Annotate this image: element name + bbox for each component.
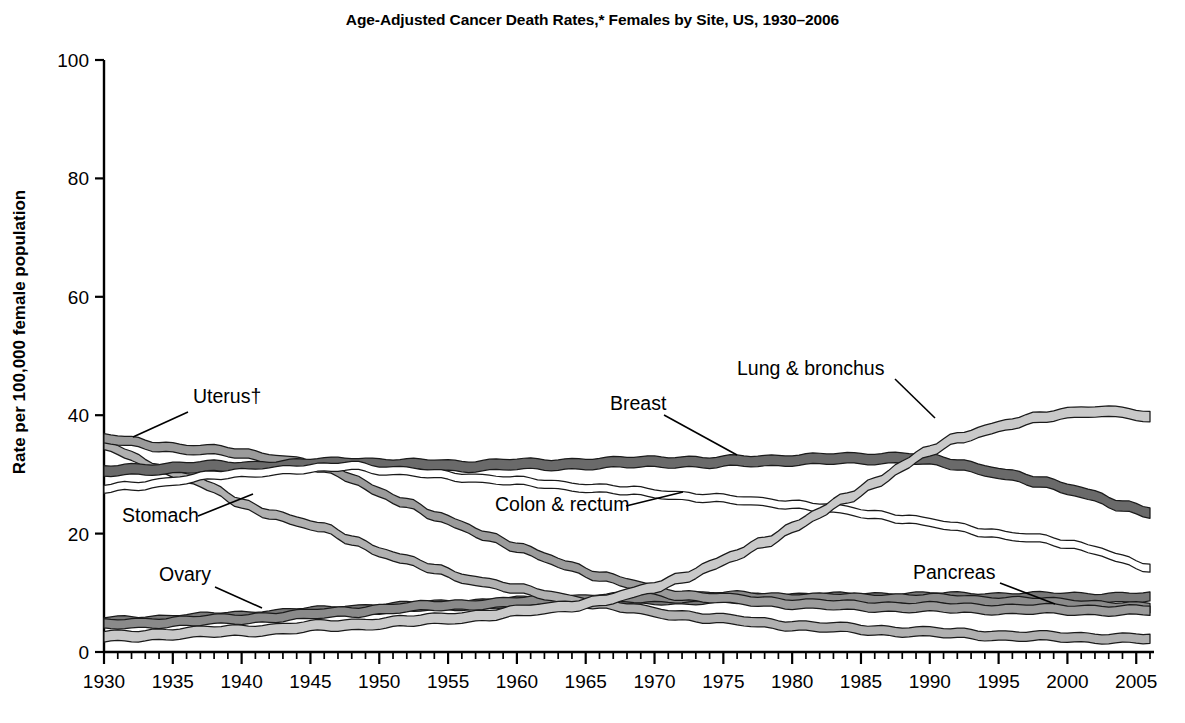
annotation-leader-line: [215, 587, 262, 608]
x-tick-label: 1935: [152, 671, 194, 692]
x-tick-label: 1960: [496, 671, 538, 692]
y-tick-label: 40: [68, 405, 89, 426]
x-tick-label: 2005: [1115, 671, 1157, 692]
x-tick-label: 1975: [702, 671, 744, 692]
x-tick-label: 1980: [771, 671, 813, 692]
x-tick-label: 1990: [909, 671, 951, 692]
series-annotation-label: Ovary: [159, 563, 211, 585]
x-tick-label: 1930: [83, 671, 125, 692]
y-tick-label: 100: [57, 50, 89, 71]
x-tick-label: 1945: [289, 671, 331, 692]
series-annotation-label: Pancreas: [913, 561, 996, 583]
x-tick-label: 1985: [840, 671, 882, 692]
x-tick-label: 1950: [358, 671, 400, 692]
y-tick-label: 0: [78, 642, 89, 663]
annotation-leader-line: [664, 415, 737, 455]
y-tick-label: 60: [68, 287, 89, 308]
chart-figure: Age-Adjusted Cancer Death Rates,* Female…: [0, 0, 1185, 723]
series-annotation-label: Uterus†: [193, 385, 261, 407]
x-tick-label: 1955: [427, 671, 469, 692]
x-tick-label: 2000: [1046, 671, 1088, 692]
annotation-leader-line: [895, 379, 935, 418]
y-tick-label: 80: [68, 168, 89, 189]
y-tick-label: 20: [68, 524, 89, 545]
chart-plot-area: 0204060801001930193519401945195019551960…: [0, 0, 1185, 723]
x-tick-label: 1940: [220, 671, 262, 692]
series-annotation-label: Breast: [610, 392, 667, 414]
x-tick-label: 1970: [633, 671, 675, 692]
x-tick-label: 1995: [977, 671, 1019, 692]
x-tick-label: 1965: [565, 671, 607, 692]
series-annotation-label: Lung & bronchus: [737, 357, 885, 379]
series-annotation-label: Stomach: [122, 504, 199, 526]
annotation-leader-line: [133, 412, 188, 437]
series-annotation-label: Colon & rectum: [495, 493, 629, 515]
